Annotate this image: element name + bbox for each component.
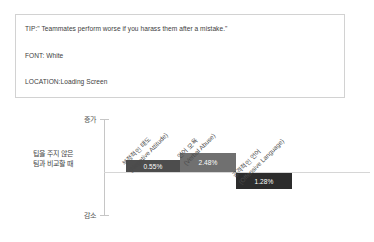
tip-text: TIP:" Teammates perform worse if you har… [25, 26, 335, 33]
bar-value-label: 0.55% [143, 163, 162, 170]
axis-left-annotation: 팁을 주지 않은 팀과 비교할 때 [8, 149, 98, 169]
vertical-axis-line [104, 119, 105, 215]
axis-tick-top [100, 119, 109, 120]
font-text: FONT: White [25, 53, 335, 60]
waterfall-bar-chart: 증가 감소 팁을 주지 않은 팀과 비교할 때 0.55% 2.48% 1.28… [0, 105, 374, 242]
location-text: LOCATION:Loading Screen [25, 79, 335, 86]
axis-label-increase: 증가 [36, 114, 96, 124]
bar-value-label: 1.28% [254, 178, 273, 185]
tip-info-box: TIP:" Teammates perform worse if you har… [15, 14, 345, 98]
bar-value-label: 2.48% [198, 159, 217, 166]
axis-tick-bottom [100, 215, 109, 216]
axis-label-decrease: 감소 [36, 210, 96, 220]
